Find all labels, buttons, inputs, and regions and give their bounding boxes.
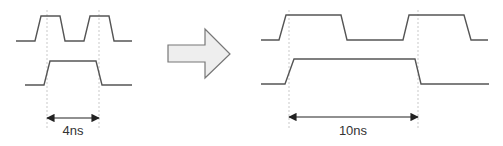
left-clock-waveform [16, 16, 132, 41]
diagram-canvas: 4ns 10ns [0, 0, 503, 146]
left-timing-group: 4ns [16, 10, 132, 138]
transition-arrow-icon [168, 29, 230, 78]
timing-diagram: 4ns 10ns [0, 0, 503, 146]
right-timing-group: 10ns [261, 10, 489, 138]
right-clock-waveform [261, 15, 488, 40]
left-duration-label: 4ns [63, 123, 84, 138]
right-duration-label: 10ns [339, 123, 368, 138]
right-pulse-waveform [261, 59, 489, 84]
left-pulse-waveform [25, 61, 132, 85]
